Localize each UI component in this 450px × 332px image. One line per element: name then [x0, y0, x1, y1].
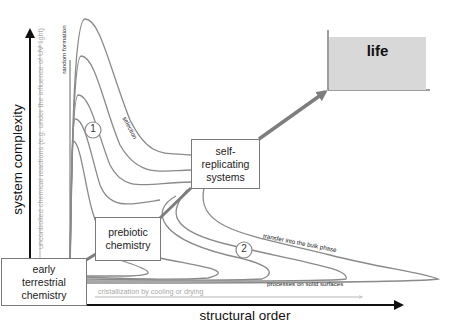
selfreplicating-to-life-arrow [259, 92, 325, 139]
crystallization-label: cristallization by cooling or drying [98, 287, 203, 296]
prebiotic-line-2: chemistry [106, 239, 151, 252]
early-line-1: early [22, 263, 67, 276]
x-axis-label: structural order [180, 308, 310, 323]
early-line-3: chemistry [22, 289, 67, 302]
self-replicating-systems-box: self- replicating systems [191, 139, 260, 189]
prebiotic-chemistry-box: prebiotic chemistry [95, 217, 161, 261]
prebiotic-line-1: prebiotic [106, 226, 151, 239]
early-line-2: terrestrial [22, 276, 67, 289]
marker-2-label: 2 [236, 243, 252, 254]
early-terrestrial-chemistry-box: early terrestrial chemistry [1, 258, 87, 306]
y-axis-label: system complexity [10, 95, 25, 225]
random-formation-label: random formation [60, 15, 67, 85]
marker-1-label: 1 [85, 123, 101, 134]
selfrep-line-3: systems [202, 171, 250, 184]
selfrep-line-1: self- [202, 145, 250, 158]
selfrep-line-2: replicating [202, 158, 250, 171]
solid-surfaces-label: processes on solid surfaces [267, 280, 343, 287]
uv-reactions-label: uncontrolled chemical reactions (e.g. un… [36, 4, 45, 274]
life-label: life [329, 42, 426, 59]
